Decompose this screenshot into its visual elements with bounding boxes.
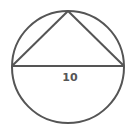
geometry-diagram: 10 bbox=[0, 0, 130, 131]
diameter-label: 10 bbox=[62, 71, 78, 84]
